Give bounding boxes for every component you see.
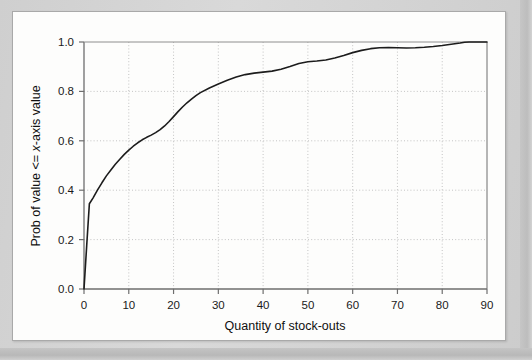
x-tick-label-30: 30 [212, 299, 225, 311]
y-axis-ticks [79, 42, 84, 289]
y-tick-label-0.4: 0.4 [58, 184, 75, 196]
y-axis-tick-labels: 0.00.20.40.60.81.0 [58, 36, 75, 295]
y-axis-title-part1: Prob of value <= [29, 151, 43, 246]
x-tick-label-90: 90 [481, 299, 494, 311]
y-tick-label-0.6: 0.6 [58, 135, 74, 147]
x-tick-label-60: 60 [346, 299, 359, 311]
y-tick-label-0.8: 0.8 [58, 85, 74, 97]
y-axis-title: Prob of value <= x-axis value [29, 85, 43, 246]
x-tick-label-40: 40 [257, 299, 270, 311]
frame-shadow-right [520, 0, 532, 360]
axes-frame [84, 42, 487, 289]
horizontal-gridlines [84, 91, 487, 239]
x-tick-label-20: 20 [167, 299, 180, 311]
x-tick-label-0: 0 [81, 299, 87, 311]
y-tick-label-0: 0.0 [58, 283, 74, 295]
y-axis-title-part2: -axis value [29, 85, 43, 145]
x-tick-label-70: 70 [391, 299, 404, 311]
cdf-curve [84, 42, 487, 289]
y-tick-label-0.2: 0.2 [58, 234, 74, 246]
x-tick-label-10: 10 [122, 299, 135, 311]
y-axis-title-group: Prob of value <= x-axis value [29, 85, 43, 246]
x-tick-label-50: 50 [301, 299, 314, 311]
figure-outer-frame: 0102030405060708090 0.00.20.40.60.81.0 Q… [0, 0, 532, 360]
x-axis-title: Quantity of stock-outs [225, 319, 346, 333]
y-tick-label-1: 1.0 [58, 36, 74, 48]
frame-shadow-bottom [0, 348, 532, 360]
vertical-gridlines [129, 42, 442, 289]
data-series-group [84, 42, 487, 289]
chart-card: 0102030405060708090 0.00.20.40.60.81.0 Q… [12, 11, 506, 341]
cdf-line-chart: 0102030405060708090 0.00.20.40.60.81.0 Q… [13, 12, 506, 341]
x-axis-ticks [84, 289, 487, 294]
x-axis-tick-labels: 0102030405060708090 [81, 299, 494, 311]
x-tick-label-80: 80 [436, 299, 449, 311]
